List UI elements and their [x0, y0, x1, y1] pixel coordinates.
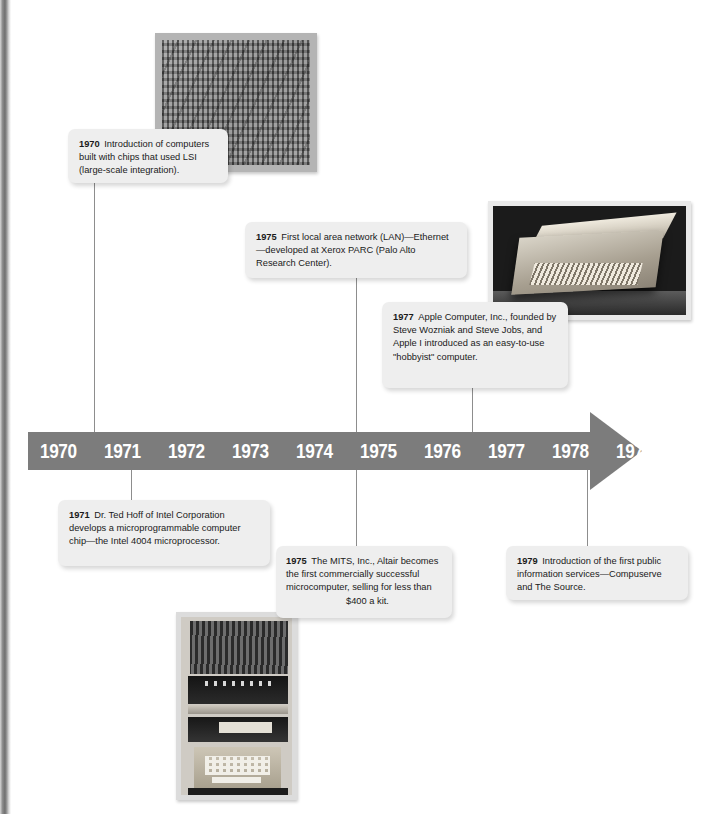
apple-circuit-board [529, 263, 643, 285]
altair-drive-slot [219, 722, 272, 733]
callout-1979-year: 1979 [517, 556, 538, 566]
timeline-year-1972: 1972 [168, 439, 205, 463]
callout-1971: 1971 Dr. Ted Hoff of Intel Corporation d… [58, 500, 270, 566]
altair-space-bar [212, 777, 261, 782]
timeline-infographic: 1970 1971 1972 1973 1974 1975 1976 1977 … [0, 0, 709, 814]
connector-1979 [587, 470, 588, 546]
callout-1979: 1979 Introduction of the first public in… [506, 546, 688, 600]
wrap-spacer-photo [286, 601, 346, 631]
timeline-year-1979: 1979 [616, 439, 653, 463]
altair-trim-strip [188, 705, 288, 714]
callout-1971-year: 1971 [69, 510, 90, 520]
timeline-year-1975: 1975 [360, 439, 397, 463]
callout-1975-lan-year: 1975 [256, 232, 277, 242]
timeline-year-1973: 1973 [232, 439, 269, 463]
callout-1977-text: Apple Computer, Inc., founded by Steve W… [393, 312, 556, 362]
connector-1975-mits [356, 470, 357, 546]
timeline-year-1970: 1970 [40, 439, 77, 463]
timeline-year-1974: 1974 [296, 439, 333, 463]
timeline-year-1976: 1976 [424, 439, 461, 463]
timeline-year-1971: 1971 [104, 439, 141, 463]
page-binding-edge [0, 0, 11, 814]
callout-1975-lan-text: First local area network (LAN)—Ethernet—… [256, 232, 449, 268]
connector-1977 [472, 387, 473, 434]
callout-1971-text: Dr. Ted Hoff of Intel Corporation develo… [69, 510, 241, 546]
connector-1975-lan [356, 277, 357, 434]
altair-open-chassis [190, 621, 288, 674]
callout-1970: 1970 Introduction of computers built wit… [68, 129, 228, 183]
callout-1975-lan: 1975 First local area network (LAN)—Ethe… [245, 222, 467, 278]
connector-1971 [131, 470, 132, 500]
altair-led-row [205, 681, 274, 686]
timeline-year-1977: 1977 [488, 439, 525, 463]
callout-1977: 1977 Apple Computer, Inc., founded by St… [382, 302, 568, 388]
callout-1970-year: 1970 [79, 139, 100, 149]
altair-key-grid [205, 756, 269, 776]
connector-1970 [94, 182, 95, 434]
altair-base-shadow [188, 788, 288, 795]
photo-altair [176, 612, 297, 800]
callout-1975-mits-year: 1975 [286, 556, 307, 566]
callout-1975-mits: 1975 The MITS, Inc., Altair becomes the … [276, 546, 452, 618]
timeline-year-1978: 1978 [552, 439, 589, 463]
callout-1977-year: 1977 [393, 312, 414, 322]
altair-front-panel [188, 676, 288, 704]
